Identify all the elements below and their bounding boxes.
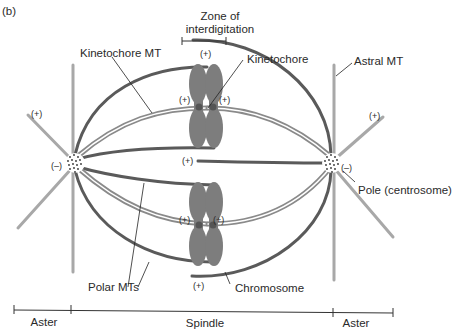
plus-sign-top: (+) — [200, 50, 211, 59]
kinetochore-label: Kinetochore — [247, 54, 308, 66]
scale-label-aster-right: Aster — [343, 318, 370, 330]
plus-sign-bottom: (+) — [193, 282, 204, 291]
zone-label-line1: Zone of — [201, 11, 240, 23]
leader-lines — [112, 57, 355, 287]
minus-sign-right: (–) — [341, 164, 352, 173]
plus-sign-top-left-kinetochore: (+) — [179, 96, 190, 105]
scale-bar — [14, 305, 393, 317]
minus-sign-left: (–) — [51, 162, 62, 171]
plus-sign-top-right-kinetochore: (+) — [219, 96, 230, 105]
plus-sign-bottom-left-kinetochore: (+) — [179, 216, 190, 225]
astral-mt-label: Astral MT — [354, 56, 403, 68]
scale-label-aster-left: Aster — [31, 317, 58, 329]
plus-sign-right-astral: (+) — [369, 112, 380, 121]
right-centrosome — [322, 153, 342, 173]
zone-bracket — [182, 37, 226, 45]
plus-sign-bottom-right-kinetochore: (+) — [213, 216, 224, 225]
left-centrosome — [65, 153, 85, 173]
polar-mts-label: Polar MTs — [88, 282, 139, 294]
plus-sign-middle: (+) — [182, 157, 193, 166]
zone-label-line2: interdigitation — [186, 24, 254, 36]
kinetochore-mt-label: Kinetochore MT — [80, 48, 161, 60]
scale-label-spindle: Spindle — [186, 318, 224, 330]
pole-label: Pole (centrosome) — [358, 185, 452, 197]
chromosome-label: Chromosome — [235, 283, 304, 295]
panel-label: (b) — [2, 6, 16, 18]
plus-sign-left-astral: (+) — [31, 110, 42, 119]
